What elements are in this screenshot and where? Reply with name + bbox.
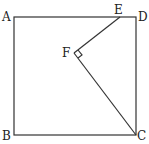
segment-fc bbox=[74, 53, 136, 135]
segment-ef bbox=[74, 17, 120, 53]
label-a: A bbox=[1, 10, 11, 24]
square-abcd bbox=[14, 17, 136, 135]
geometry-diagram: A B C D E F bbox=[0, 0, 149, 144]
label-c: C bbox=[137, 129, 146, 143]
label-e: E bbox=[114, 3, 123, 17]
right-angle-marker bbox=[78, 50, 82, 58]
label-b: B bbox=[2, 129, 11, 143]
label-f: F bbox=[62, 46, 70, 60]
label-d: D bbox=[138, 10, 148, 24]
